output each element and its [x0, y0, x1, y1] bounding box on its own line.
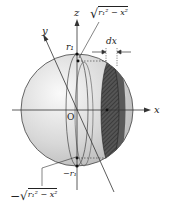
dx-arrows	[92, 50, 131, 54]
point-top-sqrt	[77, 60, 80, 63]
top-r1-label: r₁	[66, 43, 74, 52]
origin-label: O	[67, 113, 74, 122]
point-top-r1	[75, 52, 78, 55]
bottom-r1-label: −r₁	[63, 170, 77, 178]
point-bottom-r1	[75, 164, 78, 167]
top-sqrt-leader	[79, 22, 99, 58]
top-sqrt-label: √r₁² − x²	[90, 5, 128, 21]
x-axis-arrow-icon	[144, 108, 151, 113]
top-sqrt-expression: r₁² − x²	[98, 6, 128, 17]
x-axis-label: x	[154, 105, 160, 115]
z-axis-arrow-icon	[75, 19, 80, 26]
sphere-slice-diagram	[0, 0, 170, 216]
neg-sqrt-symbol: −√	[10, 189, 28, 203]
slab	[101, 58, 126, 165]
bottom-sqrt-label: −√r₁² − x²	[10, 187, 57, 203]
y-axis-label: y	[42, 26, 48, 36]
point-bottom-sqrt	[76, 157, 79, 160]
point-slab-center	[106, 109, 109, 112]
bottom-sqrt-expression: r₁² − x²	[28, 188, 58, 199]
z-axis-label: z	[74, 8, 79, 18]
dx-label: dx	[106, 37, 117, 46]
